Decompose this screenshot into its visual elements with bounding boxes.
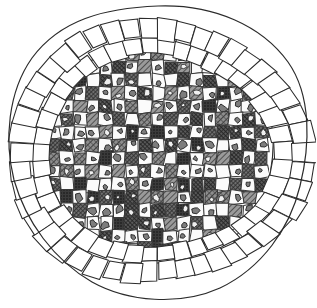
starch-grain xyxy=(103,90,108,94)
starch-grain xyxy=(169,130,173,134)
epidermis-cell-outer xyxy=(159,260,178,280)
starch-grain xyxy=(131,141,136,146)
starch-grain xyxy=(129,91,136,97)
starch-grain xyxy=(65,158,71,162)
cell-inclusion xyxy=(205,157,210,162)
parenchyma-cell-pale xyxy=(216,140,229,152)
epidermis-cell-outer xyxy=(289,120,316,144)
parenchyma-cell-pale xyxy=(137,99,152,114)
parenchyma-cell-dark xyxy=(215,111,229,126)
starch-grain xyxy=(209,210,214,216)
epidermis-cell-outer xyxy=(292,142,317,163)
parenchyma-cell-pale xyxy=(215,177,230,192)
epidermis-cell-outer xyxy=(139,18,157,38)
parenchyma-cell-dark xyxy=(176,152,190,165)
epidermis-cell-outer xyxy=(10,143,33,163)
figure-root: transverse section of a seed / root show… xyxy=(0,0,316,308)
epidermis-cell-inner xyxy=(141,38,158,53)
parenchyma-cell-dark xyxy=(216,150,231,165)
parenchyma-cell-dark xyxy=(163,217,177,232)
parenchyma-cell-pale xyxy=(138,73,152,87)
parenchyma-cell-dark xyxy=(124,152,140,166)
starch-grain xyxy=(127,64,133,69)
parenchyma-cell-dark xyxy=(192,177,203,192)
starch-grain xyxy=(180,91,187,99)
parenchyma-cell-dark xyxy=(255,152,268,166)
parenchyma-cell-dark xyxy=(138,113,151,127)
parenchyma-cell-dark xyxy=(176,72,190,87)
parenchyma-cell-dark xyxy=(151,203,166,218)
parenchyma-cell-dark xyxy=(85,139,99,152)
cross-section-drawing xyxy=(0,0,316,308)
starch-grain xyxy=(142,181,148,187)
parenchyma-cell-pale xyxy=(60,176,74,191)
parenchyma-cell-dark xyxy=(124,190,138,204)
starch-grain xyxy=(258,168,262,172)
starch-grain xyxy=(182,222,188,228)
parenchyma-cell-dark xyxy=(190,112,203,126)
starch-grain xyxy=(197,128,201,133)
epidermis-cell-inner xyxy=(33,160,51,178)
starch-grain xyxy=(246,182,250,187)
starch-grain xyxy=(157,115,163,121)
parenchyma-cell-dark xyxy=(137,60,153,73)
cell-inclusion xyxy=(105,195,110,200)
cell-inclusion xyxy=(220,91,224,96)
epidermis-cell-outer xyxy=(9,161,31,182)
cell-inclusion xyxy=(144,89,150,96)
parenchyma-cell-dark xyxy=(178,125,191,138)
epidermis-cell-inner xyxy=(274,141,294,161)
parenchyma-cell-dark xyxy=(242,192,257,205)
parenchyma-cell-pale xyxy=(164,73,178,86)
epidermis-cell-inner xyxy=(157,245,175,261)
parenchyma-cell-dark xyxy=(202,99,218,112)
